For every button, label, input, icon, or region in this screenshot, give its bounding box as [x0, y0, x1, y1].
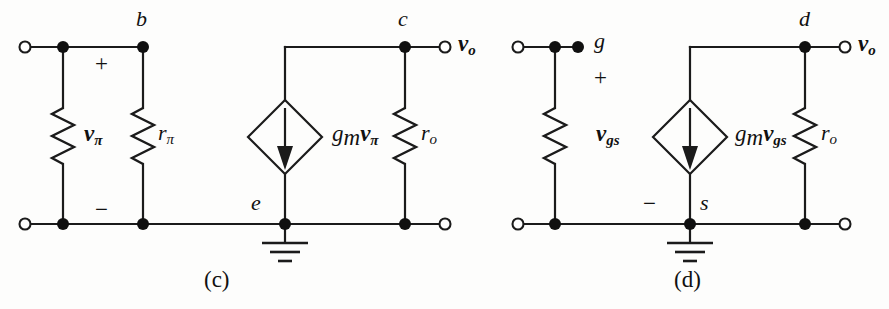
d-source-arrow-head: [682, 146, 698, 170]
d-output-terminal-top[interactable]: [840, 42, 851, 53]
c-junction-dot-bottom-ro: [399, 218, 411, 230]
label-ro-c: ro: [421, 122, 437, 147]
label-polarity-minus-c: −: [95, 198, 108, 221]
circuit-c: [20, 41, 451, 261]
d-input-terminal-bottom[interactable]: [513, 219, 524, 230]
c-output-terminal-top[interactable]: [440, 42, 451, 53]
label-vo-c: vo: [458, 32, 476, 58]
d-ro-resistor: [794, 108, 816, 164]
label-node-e: e: [251, 192, 261, 214]
c-output-terminal-bottom[interactable]: [440, 219, 451, 230]
d-junction-dot-gate: [549, 41, 561, 53]
c-input-terminal-bottom[interactable]: [20, 219, 31, 230]
label-node-d: d: [799, 8, 810, 30]
label-vo-d: vo: [858, 32, 876, 58]
caption-d: (d): [674, 268, 701, 291]
d-node-dot-d: [799, 41, 811, 53]
label-node-s: s: [700, 192, 709, 214]
label-rpi: rπ: [158, 122, 174, 147]
label-vpi: vπ: [84, 122, 102, 148]
d-junction-dot-bottom-ro: [799, 218, 811, 230]
circuit-drawing: [0, 0, 889, 309]
label-polarity-minus-d: −: [643, 192, 656, 215]
d-node-dot-s: [684, 218, 696, 230]
c-rpi-resistor: [132, 108, 154, 164]
d-junction-dot-bottom-gate: [549, 218, 561, 230]
label-node-c: c: [398, 8, 408, 30]
d-output-terminal-bottom[interactable]: [840, 219, 851, 230]
d-input-terminal-top[interactable]: [513, 42, 524, 53]
label-ro-d: ro: [821, 122, 837, 147]
d-node-dot-g: [572, 41, 584, 53]
label-vgs: vgs: [596, 122, 620, 148]
caption-c: (c): [204, 268, 230, 291]
label-node-g: g: [594, 30, 605, 52]
label-gm-vgs: gmvgs: [735, 122, 787, 149]
c-input-terminal-top[interactable]: [20, 42, 31, 53]
c-node-dot-e: [279, 218, 291, 230]
c-node-dot-c: [399, 41, 411, 53]
d-gate-resistor: [544, 108, 566, 164]
label-node-b: b: [136, 8, 147, 30]
c-ro-resistor: [394, 108, 416, 164]
label-gm-vpi: gmvπ: [332, 122, 379, 149]
c-junction-dot-top-left: [57, 41, 69, 53]
c-junction-dot-bottom-rpi: [137, 218, 149, 230]
c-source-resistor: [52, 108, 74, 164]
figure-canvas: b + − vπ rπ gmvπ ro c e vo (c) g + − vgs…: [0, 0, 889, 309]
c-junction-dot-bottom-left: [57, 218, 69, 230]
circuit-d: [513, 41, 851, 261]
c-source-arrow-head: [277, 146, 293, 170]
c-node-dot-b: [137, 41, 149, 53]
label-polarity-plus-c: +: [95, 52, 108, 75]
label-polarity-plus-d: +: [594, 66, 607, 89]
